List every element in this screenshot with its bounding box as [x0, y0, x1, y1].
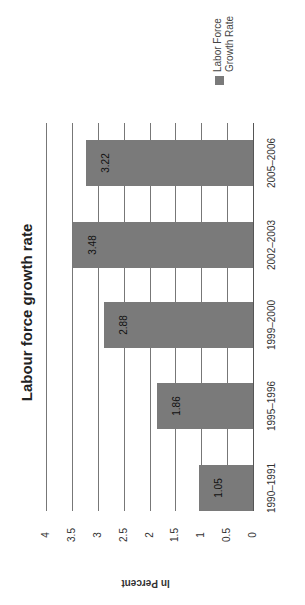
y-tick-label: 2.5: [118, 515, 129, 555]
chart-canvas: Labour force growth rate In Percent 00.5…: [0, 0, 305, 605]
y-tick-label: 3: [92, 515, 103, 555]
bar-value-label: 1.86: [171, 383, 182, 429]
bar-value-label: 2.88: [118, 302, 129, 348]
y-tick-label: 1.5: [169, 515, 180, 555]
bar-value-label: 1.05: [213, 465, 224, 511]
y-tick-label: 3.5: [66, 515, 77, 555]
bar-value-label: 3.22: [100, 140, 111, 186]
x-tick-label: 2005–2006: [266, 133, 277, 193]
gridline: [72, 123, 73, 511]
bar: 2.88: [104, 302, 253, 348]
x-tick-label: 2002–2003: [266, 215, 277, 275]
y-tick-label: 0.5: [221, 515, 232, 555]
legend: Labor ForceGrowth Rate: [212, 16, 236, 85]
bar: 3.48: [73, 222, 253, 268]
bar-value-label: 3.48: [87, 222, 98, 268]
gridline: [46, 123, 47, 511]
y-axis-label: In Percent: [96, 578, 196, 589]
legend-label: Labor ForceGrowth Rate: [212, 16, 236, 72]
legend-swatch: [215, 76, 224, 85]
chart-title: Labour force growth rate: [18, 0, 35, 605]
x-tick-label: 1995–1996: [266, 376, 277, 436]
y-tick-label: 0: [247, 515, 258, 555]
y-tick-label: 2: [144, 515, 155, 555]
bar: 1.05: [199, 465, 253, 511]
y-tick-label: 1: [195, 515, 206, 555]
x-tick-label: 1990–1991: [266, 458, 277, 518]
plot-area: 1.051.862.883.483.22: [46, 123, 254, 511]
bar: 1.86: [157, 383, 253, 429]
x-tick-label: 1999–2000: [266, 295, 277, 355]
bar: 3.22: [86, 140, 253, 186]
y-tick-label: 4: [40, 515, 51, 555]
